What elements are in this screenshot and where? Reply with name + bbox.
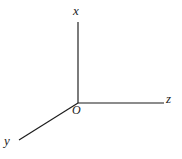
y-axis-label: y: [4, 134, 10, 147]
coordinate-axes-figure: x y z O: [0, 0, 182, 159]
y-axis-line: [19, 103, 78, 140]
origin-label: O: [72, 104, 81, 116]
axes-drawing: [0, 0, 182, 159]
z-axis-label: z: [166, 92, 171, 105]
x-axis-label: x: [73, 4, 79, 17]
